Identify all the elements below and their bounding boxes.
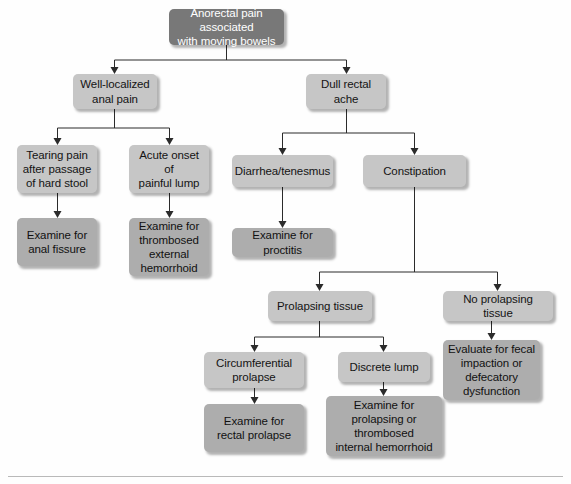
arrowhead-diarrhea	[279, 148, 287, 155]
arrowhead-prolapsing	[316, 284, 324, 291]
arrowhead-acute-lump	[166, 138, 174, 145]
node-well_localized[interactable]: Well-localized anal pain	[73, 74, 157, 109]
arrowhead-exam-fissure	[54, 211, 62, 218]
arrowhead-no-prolapsing	[494, 284, 502, 291]
node-discrete_lump[interactable]: Discrete lump	[338, 352, 430, 382]
node-exam_thrombosed[interactable]: Examine for thrombosed external hemorrho…	[129, 218, 209, 276]
node-exam_internal[interactable]: Examine for prolapsing or thrombosed int…	[326, 396, 442, 456]
node-acute_lump[interactable]: Acute onset of painful lump	[129, 145, 209, 193]
node-dull_ache[interactable]: Dull rectal ache	[306, 74, 386, 109]
arrowhead-exam-internal	[380, 389, 388, 396]
arrowhead-discrete-lump	[380, 345, 388, 352]
arrowhead-tearing-pain	[54, 138, 62, 145]
arrowhead-well-localized	[111, 67, 119, 74]
node-exam_rectal[interactable]: Examine for rectal prolapse	[204, 404, 304, 452]
flowchart-canvas: Anorectal pain associated with moving bo…	[0, 0, 571, 470]
arrowhead-exam-thrombosed	[166, 211, 174, 218]
node-evaluate_fecal[interactable]: Evaluate for fecal impaction or defecato…	[443, 340, 540, 400]
arrowhead-exam-rectal	[251, 397, 259, 404]
node-root[interactable]: Anorectal pain associated with moving bo…	[169, 9, 284, 45]
node-circumferential[interactable]: Circumferential prolapse	[204, 352, 304, 388]
node-exam_fissure[interactable]: Examine for anal fissure	[17, 218, 97, 266]
node-prolapsing[interactable]: Prolapsing tissue	[268, 291, 372, 321]
node-constipation[interactable]: Constipation	[363, 155, 466, 187]
footer-divider	[8, 476, 563, 477]
arrowhead-constipation	[411, 148, 419, 155]
node-exam_proctitis[interactable]: Examine for proctitis	[232, 228, 333, 257]
arrowhead-circumferential	[251, 345, 259, 352]
arrowhead-exam-proctitis	[279, 221, 287, 228]
arrowhead-evaluate-fecal	[488, 333, 496, 340]
node-tearing_pain[interactable]: Tearing pain after passage of hard stool	[17, 145, 97, 193]
flowchart-page: Anorectal pain associated with moving bo…	[0, 0, 571, 484]
node-diarrhea[interactable]: Diarrhea/tenesmus	[232, 155, 333, 187]
node-no_prolapsing[interactable]: No prolapsing tissue	[443, 291, 553, 321]
arrowhead-dull-ache	[343, 67, 351, 74]
